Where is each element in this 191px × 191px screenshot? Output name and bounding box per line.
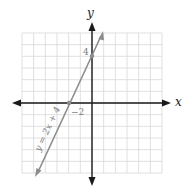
line-lower-arrow-icon <box>35 168 42 177</box>
y-axis-up-arrow-icon <box>89 22 96 31</box>
x-intercept-label: −2 <box>71 107 84 117</box>
coordinate-plane: x y 4 −2 y = 2x + 4 <box>0 0 191 191</box>
line-upper-arrow-icon <box>99 31 105 41</box>
y-axis-down-arrow-icon <box>89 177 96 186</box>
x-axis-right-arrow-icon <box>162 100 171 107</box>
y-intercept-point <box>90 54 94 58</box>
x-axis-left-arrow-icon <box>12 100 21 107</box>
y-axis-label: y <box>86 6 94 20</box>
x-axis-label: x <box>175 95 182 109</box>
y-intercept-label: 4 <box>83 47 89 57</box>
x-intercept-point <box>67 101 71 105</box>
